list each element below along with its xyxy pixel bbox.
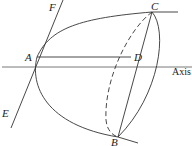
label-e: E	[1, 107, 9, 119]
lower-curve-ab	[35, 57, 138, 143]
tangent-line-ef	[11, 0, 63, 128]
label-axis: Axis	[172, 66, 191, 77]
label-f: F	[48, 1, 56, 13]
ellipse-arc-dashed	[106, 12, 152, 137]
upper-curve-ac	[37, 12, 178, 57]
label-d: D	[133, 51, 142, 63]
diagram-canvas: F A C D B E Axis	[0, 0, 192, 146]
label-a: A	[24, 51, 32, 63]
label-c: C	[151, 0, 159, 12]
label-b: B	[111, 136, 118, 146]
ellipse-arc-solid	[118, 12, 160, 137]
